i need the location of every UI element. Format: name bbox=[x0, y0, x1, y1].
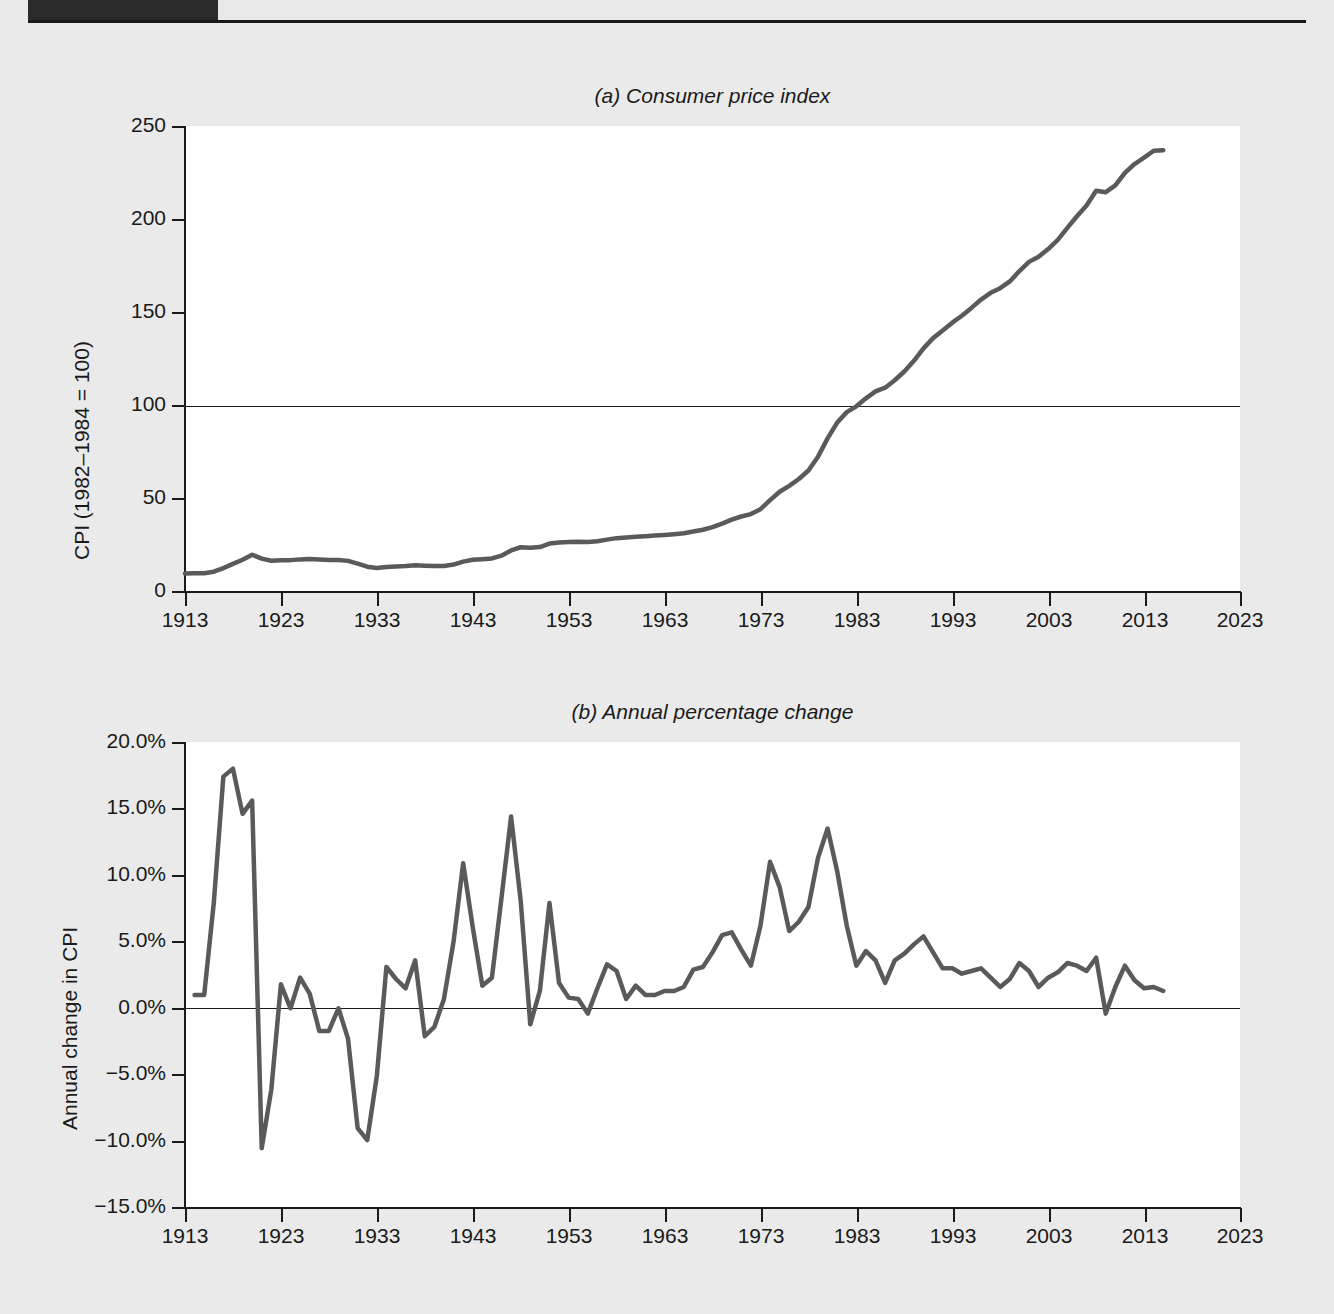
panel-b-series-line bbox=[0, 0, 1334, 1314]
chart-panel-annual-percentage-change: (b) Annual percentage change Annual chan… bbox=[0, 0, 1334, 1314]
figure-page: CHAPTER 8 Inflation and the Price Level … bbox=[0, 0, 1334, 1314]
